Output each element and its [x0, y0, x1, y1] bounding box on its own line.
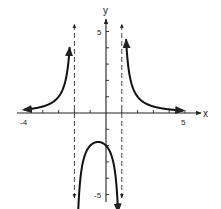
x-axis-label: x	[203, 108, 208, 119]
right-branch-curve	[126, 39, 183, 110]
x-tick-label-max: 5	[181, 118, 186, 127]
function-curves	[24, 39, 183, 209]
y-tick-label-max: 5	[97, 28, 102, 37]
y-axis: y 5 -5	[94, 5, 109, 202]
x-tick-label-min: -4	[20, 118, 28, 127]
rational-function-graph: x -4 5 y 5 -5	[0, 0, 221, 209]
y-axis-label: y	[103, 5, 108, 16]
y-tick-label-min: -5	[94, 191, 102, 200]
left-branch-curve	[24, 47, 70, 110]
